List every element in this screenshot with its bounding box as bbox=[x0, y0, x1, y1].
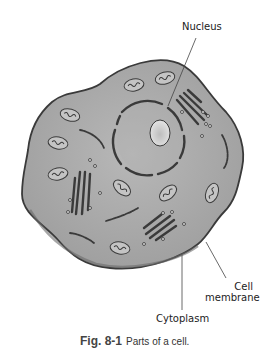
cytoplasm-label: Cytoplasm bbox=[156, 313, 209, 324]
figure-caption-text: Parts of a cell. bbox=[126, 336, 189, 347]
figure-caption: Fig. 8-1Parts of a cell. bbox=[80, 330, 189, 349]
membrane-leader-line bbox=[206, 242, 226, 278]
nucleus bbox=[117, 106, 183, 174]
cell-membrane-label-line2: membrane bbox=[205, 292, 257, 303]
figure-number: Fig. 8-1 bbox=[80, 334, 122, 348]
nucleus-label: Nucleus bbox=[182, 21, 222, 32]
cell-membrane-label: Cell membrane bbox=[205, 281, 257, 303]
cell-diagram bbox=[0, 0, 274, 361]
cell-membrane-label-line1: Cell bbox=[205, 281, 257, 292]
nucleolus bbox=[150, 120, 170, 146]
